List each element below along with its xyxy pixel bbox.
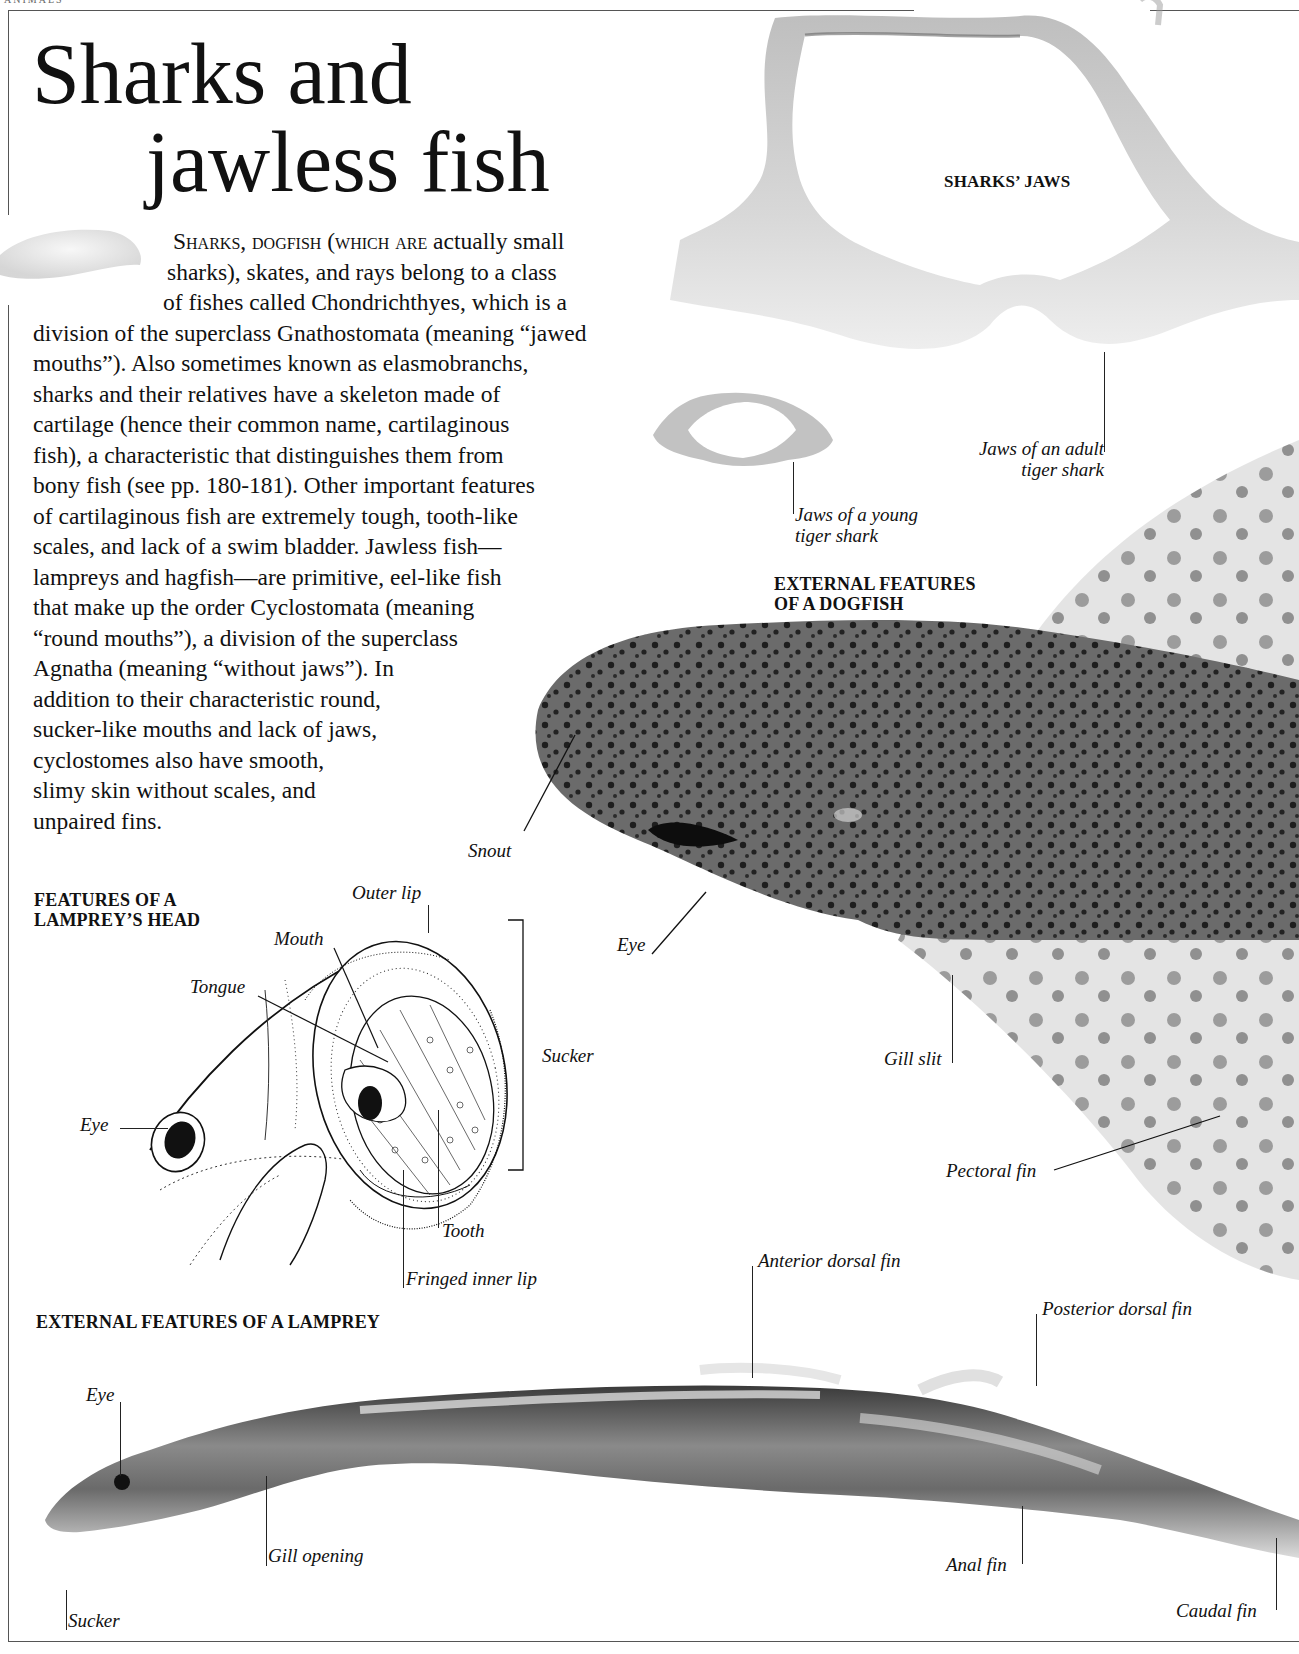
label-lamprey-head-eye: Eye <box>80 1114 108 1135</box>
intro-line: division of the superclass Gnathostomata… <box>33 318 713 349</box>
leader-line-anterior-dorsal-fin <box>752 1266 753 1378</box>
label-fringed-inner-lip: Fringed inner lip <box>406 1268 537 1289</box>
lamprey-head-illustration <box>130 920 530 1270</box>
label-gill-opening: Gill opening <box>268 1545 364 1566</box>
lamprey-image <box>40 1370 1299 1560</box>
intro-line: sharks), skates, and rays belong to a cl… <box>33 257 713 288</box>
sharks-jaws-heading: SHARKS’ JAWS <box>944 172 1070 192</box>
frame-rule-left-upper <box>8 10 9 215</box>
label-posterior-dorsal-fin: Posterior dorsal fin <box>1042 1298 1192 1319</box>
leader-line-outer-lip <box>428 905 429 933</box>
page-title-line-2: jawless fish <box>32 118 550 206</box>
label-dogfish-eye: Eye <box>617 934 645 955</box>
page-title-line-1: Sharks and <box>32 30 550 118</box>
leader-line-gill-slit <box>952 975 953 1063</box>
label-sucker-bracket: Sucker <box>542 1045 594 1066</box>
intro-line: sharks and their relatives have a skelet… <box>33 379 713 410</box>
label-gill-slit: Gill slit <box>884 1048 942 1069</box>
label-lamprey-eye: Eye <box>86 1384 114 1405</box>
label-tongue: Tongue <box>190 976 245 997</box>
label-anterior-dorsal-fin: Anterior dorsal fin <box>758 1250 901 1271</box>
lamprey-heading: EXTERNAL FEATURES OF A LAMPREY <box>36 1312 380 1332</box>
intro-line: of fishes called Chondrichthyes, which i… <box>33 287 713 318</box>
leader-line-lamprey-head-eye <box>120 1128 168 1129</box>
leader-line-snout <box>520 735 580 835</box>
label-caudal-fin: Caudal fin <box>1176 1600 1257 1621</box>
leader-line-anal-fin <box>1022 1506 1023 1564</box>
intro-line-1: Sharks, dogfish (which are actually smal… <box>33 226 713 257</box>
label-snout: Snout <box>468 840 511 861</box>
leader-line-fringed-inner-lip <box>403 1170 404 1288</box>
leader-line-gill-opening <box>266 1476 267 1566</box>
label-mouth: Mouth <box>274 928 324 949</box>
label-outer-lip: Outer lip <box>352 882 421 903</box>
label-anal-fin: Anal fin <box>946 1554 1007 1575</box>
frame-rule-bottom <box>8 1641 1299 1642</box>
running-head: ANIMALS <box>4 0 64 5</box>
leader-line-dogfish-eye <box>650 892 710 957</box>
label-lamprey-sucker: Sucker <box>68 1610 120 1631</box>
frame-rule-left-lower <box>8 305 9 1641</box>
leader-line-tongue <box>256 994 392 1066</box>
leader-line-caudal-fin <box>1276 1538 1277 1610</box>
label-tooth: Tooth <box>442 1220 485 1241</box>
leader-line-lamprey-eye <box>120 1402 121 1476</box>
leader-line-posterior-dorsal-fin <box>1036 1314 1037 1386</box>
leader-line-tooth <box>438 1110 439 1228</box>
label-pectoral-fin: Pectoral fin <box>946 1160 1036 1181</box>
intro-lead-small-caps: Sharks, dogfish (which are <box>173 228 427 254</box>
leader-line-pectoral-fin <box>1052 1114 1222 1174</box>
intro-line: mouths”). Also sometimes known as elasmo… <box>33 348 713 379</box>
page-title: Sharks and jawless fish <box>32 30 550 206</box>
leader-line-lamprey-sucker <box>66 1590 67 1630</box>
